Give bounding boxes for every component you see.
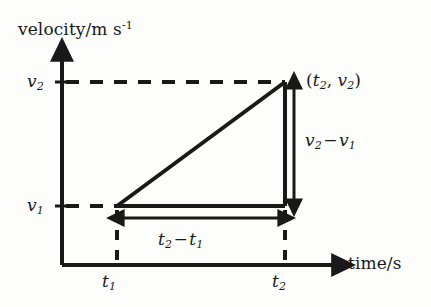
velocity-line (117, 82, 285, 206)
x-tick-label-t2: t2 (272, 273, 286, 292)
delta-t-first-base: t (158, 229, 165, 249)
x-tick-label-t2-base: t (272, 271, 279, 291)
delta-v-first-base: v (305, 130, 315, 150)
y-tick-label-v2-sub: 2 (37, 80, 44, 93)
delta-v-first-sub: 2 (315, 139, 322, 152)
delta-t-second-sub: 1 (196, 238, 203, 251)
endpoint-v-base: v (337, 70, 347, 90)
endpoint-t-sub: 2 (320, 79, 327, 92)
delta-v-operator: − (323, 130, 337, 150)
x-tick-label-t2-sub: 2 (279, 280, 286, 293)
figure-canvas: velocity/m s-1 time/s v2 v1 t1 t2 (t2, v… (0, 0, 431, 307)
endpoint-t-base: t (313, 70, 320, 90)
endpoint-close-paren: ) (354, 70, 361, 90)
delta-t-label: t2−t1 (158, 231, 203, 250)
delta-v-second-base: v (339, 130, 349, 150)
y-axis-title-text: velocity/m s (18, 19, 122, 39)
delta-v-second-sub: 1 (349, 139, 356, 152)
delta-t-operator: − (174, 229, 188, 249)
y-axis-title: velocity/m s-1 (18, 20, 133, 38)
x-tick-label-t1-sub: 1 (109, 280, 116, 293)
endpoint-open-paren: ( (306, 70, 313, 90)
x-axis-title: time/s (348, 255, 402, 272)
endpoint-comma: , (327, 70, 338, 90)
y-axis-title-superscript: -1 (122, 19, 133, 32)
y-tick-label-v1-base: v (27, 195, 37, 215)
y-tick-label-v2-base: v (27, 71, 37, 91)
dimension-arrows (121, 86, 294, 218)
x-tick-label-t1: t1 (102, 273, 116, 292)
endpoint-coordinate-label: (t2, v2) (306, 72, 361, 91)
gradient-triangle (117, 82, 285, 206)
y-tick-label-v1-sub: 1 (37, 204, 44, 217)
delta-v-label: v2−v1 (305, 132, 356, 151)
delta-t-first-sub: 2 (165, 238, 172, 251)
x-tick-label-t1-base: t (102, 271, 109, 291)
y-tick-label-v2: v2 (27, 73, 44, 92)
y-tick-label-v1: v1 (27, 197, 44, 216)
